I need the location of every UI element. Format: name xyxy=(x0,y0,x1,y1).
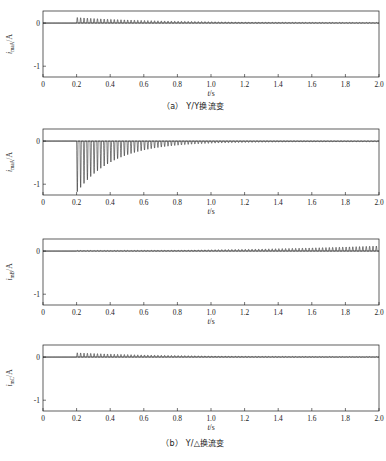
chart-panel-b2: 00.20.40.60.81.01.21.41.61.82.00-1t/simC… xyxy=(0,334,386,430)
svg-text:imB/A: imB/A xyxy=(5,263,15,281)
svg-text:0: 0 xyxy=(36,137,40,146)
svg-text:t/s: t/s xyxy=(207,207,214,214)
svg-text:1.2: 1.2 xyxy=(240,414,250,423)
svg-text:0.6: 0.6 xyxy=(139,308,149,317)
svg-text:2.0: 2.0 xyxy=(374,308,384,317)
figure-converter-transformer-currents: 00.20.40.60.81.01.21.41.61.82.00-1t/sima… xyxy=(0,0,386,461)
svg-text:0: 0 xyxy=(41,414,45,423)
svg-text:0.8: 0.8 xyxy=(173,414,183,423)
svg-text:1.6: 1.6 xyxy=(307,80,317,89)
svg-text:0.4: 0.4 xyxy=(106,414,116,423)
svg-text:t/s: t/s xyxy=(207,423,214,430)
svg-text:1.8: 1.8 xyxy=(341,198,351,207)
svg-text:0: 0 xyxy=(41,198,45,207)
svg-text:1.2: 1.2 xyxy=(240,198,250,207)
plot-b2: 00.20.40.60.81.01.21.41.61.82.00-1t/simC… xyxy=(0,334,386,430)
svg-text:0: 0 xyxy=(36,353,40,362)
svg-text:0.6: 0.6 xyxy=(139,80,149,89)
chart-panel-a1: 00.20.40.60.81.01.21.41.61.82.00-1t/sima… xyxy=(0,0,386,96)
svg-text:imaA/A: imaA/A xyxy=(5,152,15,172)
svg-text:imaA/A: imaA/A xyxy=(5,34,15,54)
svg-text:0.4: 0.4 xyxy=(106,308,116,317)
svg-text:0.2: 0.2 xyxy=(72,80,82,89)
svg-text:1.4: 1.4 xyxy=(274,198,284,207)
svg-text:1.4: 1.4 xyxy=(274,80,284,89)
svg-text:0.2: 0.2 xyxy=(72,198,82,207)
svg-text:1.0: 1.0 xyxy=(206,414,216,423)
svg-text:1.2: 1.2 xyxy=(240,80,250,89)
svg-text:0.6: 0.6 xyxy=(139,414,149,423)
caption-b-text: （b） Y/△换流变 xyxy=(161,439,224,448)
svg-text:0.4: 0.4 xyxy=(106,80,116,89)
plot-a1: 00.20.40.60.81.01.21.41.61.82.00-1t/sima… xyxy=(0,0,386,96)
svg-text:imC/A: imC/A xyxy=(5,369,15,387)
svg-text:-1: -1 xyxy=(34,396,40,405)
svg-text:0.6: 0.6 xyxy=(139,198,149,207)
caption-a: （a） Y/Y换流变 xyxy=(0,100,386,111)
svg-text:0.8: 0.8 xyxy=(173,198,183,207)
svg-text:1.4: 1.4 xyxy=(274,414,284,423)
chart-panel-b1: 00.20.40.60.81.01.21.41.61.82.00-1t/simB… xyxy=(0,228,386,324)
svg-text:1.0: 1.0 xyxy=(206,308,216,317)
svg-text:1.0: 1.0 xyxy=(206,198,216,207)
svg-text:1.0: 1.0 xyxy=(206,80,216,89)
caption-a-text: （a） Y/Y换流变 xyxy=(162,102,224,111)
svg-text:1.8: 1.8 xyxy=(341,308,351,317)
svg-text:1.4: 1.4 xyxy=(274,308,284,317)
chart-panel-a2: 00.20.40.60.81.01.21.41.61.82.00-1t/sima… xyxy=(0,118,386,214)
svg-text:0: 0 xyxy=(36,247,40,256)
svg-text:0: 0 xyxy=(41,308,45,317)
svg-text:t/s: t/s xyxy=(207,317,214,324)
svg-text:2.0: 2.0 xyxy=(374,414,384,423)
svg-text:t/s: t/s xyxy=(207,89,214,96)
svg-text:-1: -1 xyxy=(34,290,40,299)
svg-text:1.8: 1.8 xyxy=(341,414,351,423)
svg-text:-1: -1 xyxy=(34,62,40,71)
svg-text:2.0: 2.0 xyxy=(374,80,384,89)
plot-b1: 00.20.40.60.81.01.21.41.61.82.00-1t/simB… xyxy=(0,228,386,324)
svg-text:0.8: 0.8 xyxy=(173,80,183,89)
svg-text:1.8: 1.8 xyxy=(341,80,351,89)
caption-b: （b） Y/△换流变 xyxy=(0,437,386,448)
svg-text:1.6: 1.6 xyxy=(307,308,317,317)
svg-text:0.2: 0.2 xyxy=(72,308,82,317)
svg-text:1.6: 1.6 xyxy=(307,198,317,207)
svg-text:0.2: 0.2 xyxy=(72,414,82,423)
svg-text:1.6: 1.6 xyxy=(307,414,317,423)
svg-text:1.2: 1.2 xyxy=(240,308,250,317)
plot-a2: 00.20.40.60.81.01.21.41.61.82.00-1t/sima… xyxy=(0,118,386,214)
svg-text:0.8: 0.8 xyxy=(173,308,183,317)
svg-text:2.0: 2.0 xyxy=(374,198,384,207)
svg-text:-1: -1 xyxy=(34,180,40,189)
svg-text:0: 0 xyxy=(36,19,40,28)
svg-text:0: 0 xyxy=(41,80,45,89)
svg-text:0.4: 0.4 xyxy=(106,198,116,207)
